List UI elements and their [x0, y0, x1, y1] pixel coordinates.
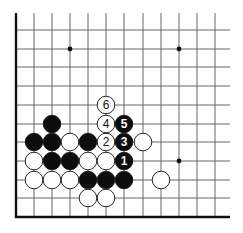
- go-board-diagram: 645231: [0, 0, 243, 233]
- black-stone-icon: [43, 115, 61, 133]
- white-stone-move-4: 4: [97, 115, 115, 133]
- move-number: 6: [103, 98, 110, 112]
- white-stone-icon: [152, 171, 170, 189]
- move-number: 1: [121, 154, 128, 168]
- white-stone: [79, 152, 97, 170]
- white-stone: [61, 171, 79, 189]
- black-stone: [79, 133, 97, 151]
- black-stone: [43, 152, 61, 170]
- white-stone: [61, 133, 79, 151]
- white-stone: [79, 189, 97, 207]
- white-stone-move-2: 2: [97, 133, 115, 151]
- white-stone-icon: [25, 171, 43, 189]
- go-board: 645231: [0, 0, 243, 233]
- black-stone: [115, 171, 133, 189]
- black-stone-icon: [79, 171, 97, 189]
- black-stone-icon: [25, 133, 43, 151]
- white-stone: [25, 171, 43, 189]
- black-stone-move-3: 3: [115, 133, 133, 151]
- move-number: 2: [103, 135, 110, 149]
- move-number: 5: [121, 117, 128, 131]
- move-number: 3: [121, 135, 128, 149]
- stones-layer: 645231: [25, 96, 170, 207]
- white-stone-icon: [25, 152, 43, 170]
- white-stone: [134, 133, 152, 151]
- star-point-icon: [177, 159, 182, 164]
- white-stone: [97, 152, 115, 170]
- black-stone: [43, 133, 61, 151]
- white-stone-icon: [61, 171, 79, 189]
- black-stone-move-5: 5: [115, 115, 133, 133]
- white-stone-move-6: 6: [97, 96, 115, 114]
- white-stone-icon: [43, 171, 61, 189]
- black-stone: [43, 115, 61, 133]
- black-stone-icon: [43, 152, 61, 170]
- star-point-icon: [68, 47, 73, 52]
- white-stone-icon: [97, 152, 115, 170]
- white-stone: [25, 152, 43, 170]
- white-stone: [43, 171, 61, 189]
- white-stone: [152, 171, 170, 189]
- black-stone-move-1: 1: [115, 152, 133, 170]
- move-number: 4: [103, 117, 110, 131]
- black-stone: [79, 171, 97, 189]
- star-point-icon: [177, 47, 182, 52]
- black-stone-icon: [97, 171, 115, 189]
- black-stone-icon: [115, 171, 133, 189]
- white-stone-icon: [79, 152, 97, 170]
- black-stone-icon: [61, 152, 79, 170]
- white-stone-icon: [79, 189, 97, 207]
- black-stone-icon: [79, 133, 97, 151]
- white-stone-icon: [134, 133, 152, 151]
- white-stone-icon: [97, 189, 115, 207]
- black-stone: [97, 171, 115, 189]
- white-stone: [97, 189, 115, 207]
- black-stone: [61, 152, 79, 170]
- black-stone-icon: [43, 133, 61, 151]
- white-stone-icon: [61, 133, 79, 151]
- black-stone: [25, 133, 43, 151]
